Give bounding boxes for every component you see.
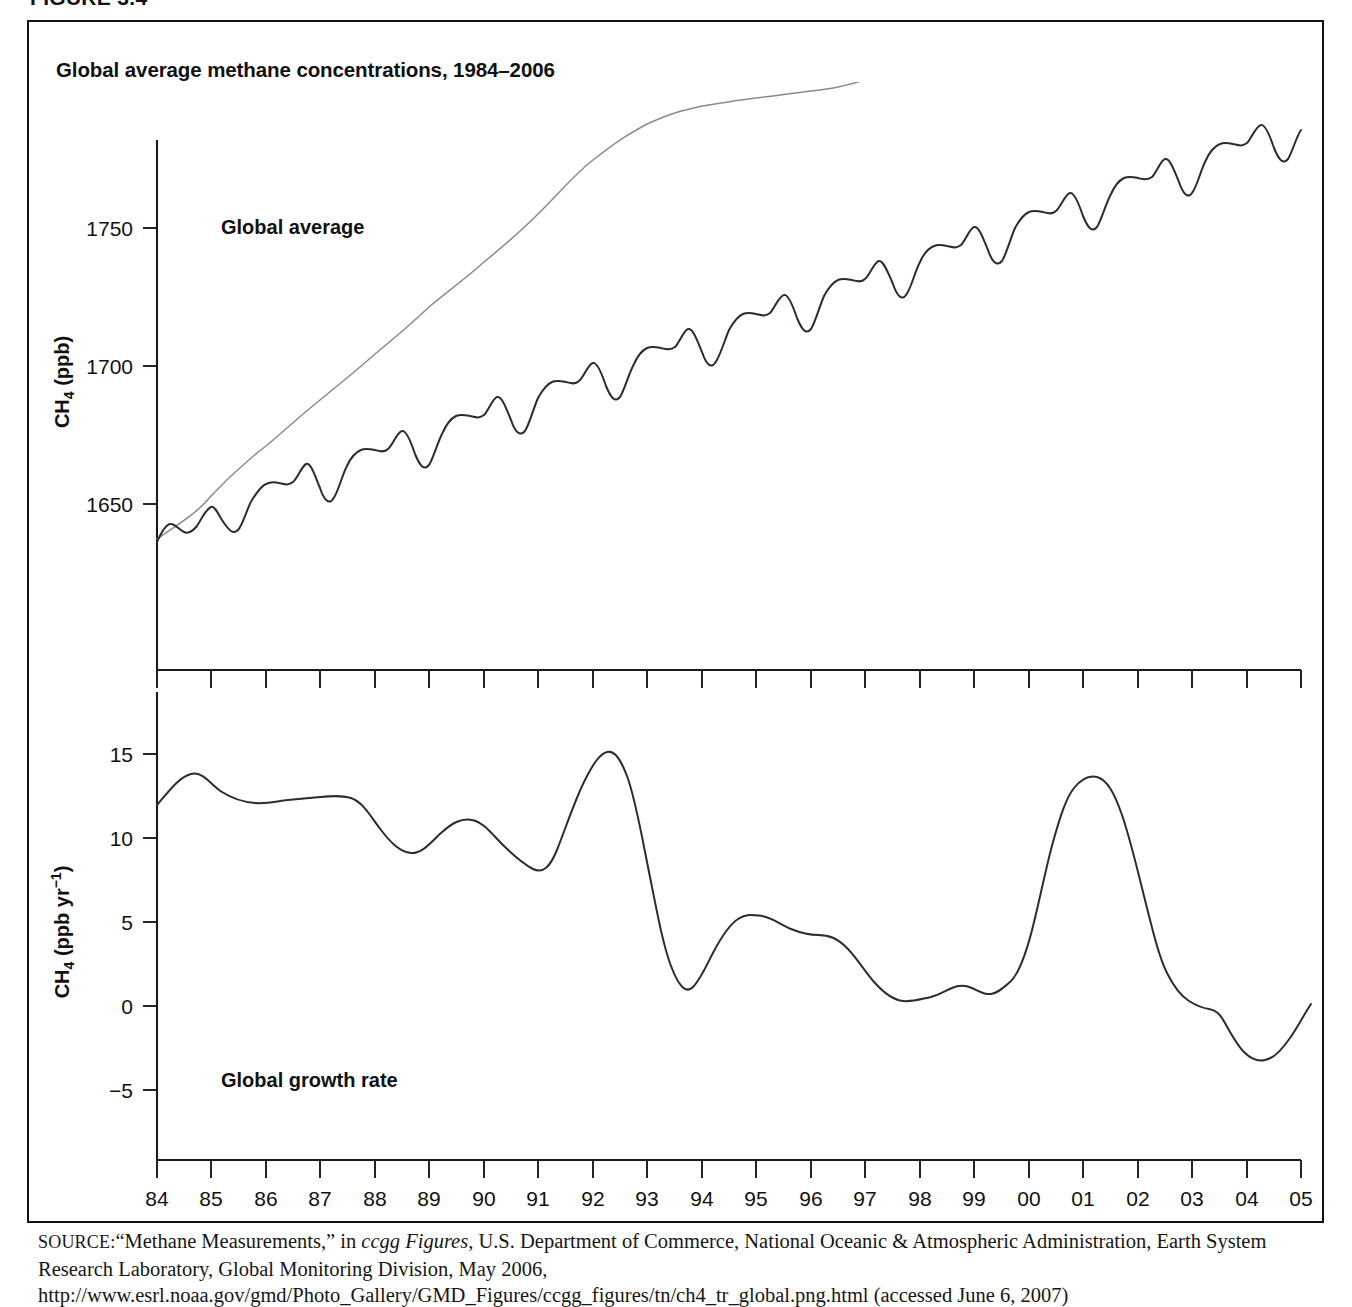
top-series-line (157, 125, 1301, 542)
x-ticklabel-88: 88 (363, 1187, 386, 1210)
top-y-title-rest: (ppb) (51, 336, 73, 392)
x-ticklabel-98: 98 (908, 1187, 931, 1210)
x-ticklabel-97: 97 (853, 1187, 876, 1210)
top-panel-annotation: Global average (221, 216, 364, 238)
x-ticklabel-96: 96 (799, 1187, 822, 1210)
figure-number-label: FIGURE 3.4 (30, 0, 147, 10)
bottom-y-title-rest: (ppb yr (51, 888, 73, 962)
x-ticklabel-93: 93 (635, 1187, 658, 1210)
x-ticklabel-95: 95 (744, 1187, 767, 1210)
x-ticklabel-89: 89 (417, 1187, 440, 1210)
source-text-3: .png.html (accessed June 6, 2007) (790, 1284, 1068, 1306)
x-ticklabel-91: 91 (526, 1187, 549, 1210)
bottom-y-axis-title: CH4 (ppb yr−1) (48, 866, 77, 999)
x-ticklabel-00: 00 (1017, 1187, 1040, 1210)
bottom-x-ticks (157, 1160, 1301, 1178)
x-ticklabel-84: 84 (145, 1187, 169, 1210)
x-ticklabel-92: 92 (581, 1187, 604, 1210)
x-ticklabel-04: 04 (1235, 1187, 1259, 1210)
source-text-1: “Methane Measurements,” in (115, 1230, 361, 1252)
top-y-title-main: CH (51, 399, 73, 428)
bottom-y-ticklabel-0: 0 (121, 995, 133, 1018)
x-ticklabel-87: 87 (308, 1187, 331, 1210)
bottom-y-ticklabel-15: 15 (110, 743, 133, 766)
x-ticklabel-01: 01 (1071, 1187, 1094, 1210)
bottom-y-ticklabel-minus5: −5 (109, 1079, 133, 1102)
x-ticklabel-90: 90 (472, 1187, 495, 1210)
source-italic-title: ccgg Figures (361, 1230, 468, 1252)
x-ticklabel-03: 03 (1180, 1187, 1203, 1210)
methane-chart-svg: 1750 1700 1650 CH4 (ppb) (29, 82, 1322, 1222)
bottom-y-title-main: CH (51, 969, 73, 998)
bottom-y-title-close: ) (51, 866, 73, 873)
x-ticklabel-86: 86 (254, 1187, 277, 1210)
bottom-y-ticklabel-5: 5 (121, 911, 133, 934)
top-y-ticklabel-1700: 1700 (86, 355, 133, 378)
x-ticklabel-02: 02 (1126, 1187, 1149, 1210)
top-y-ticklabel-1750: 1750 (86, 217, 133, 240)
top-y-ticklabel-1650: 1650 (86, 493, 133, 516)
source-prefix: SOURCE: (38, 1232, 115, 1252)
x-ticklabel-05: 05 (1289, 1187, 1312, 1210)
chart-title: Global average methane concentrations, 1… (56, 58, 555, 82)
svg-text:CH4 (ppb): CH4 (ppb) (51, 336, 77, 428)
figure-page: FIGURE 3.4 Global average methane concen… (0, 0, 1352, 1307)
bottom-y-title-sup: −1 (48, 872, 64, 888)
source-note: SOURCE:“Methane Measurements,” in ccgg F… (38, 1228, 1333, 1307)
bottom-x-ticklabels: 84 85 86 87 88 89 90 91 92 93 94 95 96 9… (145, 1187, 1312, 1210)
top-trend-line (157, 82, 1301, 539)
top-y-title-sub: 4 (61, 391, 77, 399)
svg-text:CH4 (ppb yr−1): CH4 (ppb yr−1) (48, 866, 77, 999)
bottom-y-title-sub: 4 (61, 961, 77, 969)
top-x-ticks (157, 670, 1301, 688)
bottom-panel-group: 15 10 5 0 −5 CH4 (ppb yr−1) (48, 692, 1313, 1222)
x-ticklabel-94: 94 (690, 1187, 714, 1210)
figure-panel: Global average methane concentrations, 1… (27, 20, 1324, 1223)
bottom-panel-annotation: Global growth rate (221, 1069, 398, 1091)
x-ticklabel-85: 85 (199, 1187, 222, 1210)
bottom-series-line (157, 752, 1311, 1061)
top-y-axis-title: CH4 (ppb) (51, 336, 77, 428)
bottom-y-ticklabel-10: 10 (110, 827, 133, 850)
top-panel-group: 1750 1700 1650 CH4 (ppb) (51, 82, 1301, 688)
x-ticklabel-99: 99 (962, 1187, 985, 1210)
